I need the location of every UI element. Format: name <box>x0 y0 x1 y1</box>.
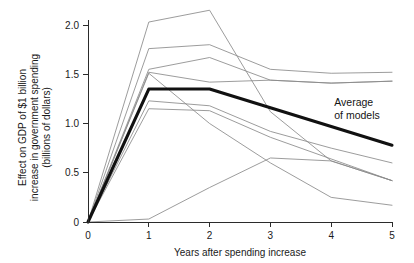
chart-canvas: 00.51.01.52.0 012345 Averageof models Ef… <box>0 0 414 263</box>
y-tick-label: 0 <box>73 217 79 228</box>
y-axis-title-line-1: Effect on GDP of $1 billion <box>17 69 28 186</box>
x-tick-label: 3 <box>268 230 274 241</box>
chart-figure: 00.51.01.52.0 012345 Averageof models Ef… <box>0 0 414 263</box>
series-line-model-3 <box>88 58 392 222</box>
y-axis-title-line-3: (billions of dollars) <box>41 87 52 168</box>
y-tick-label: 1.0 <box>65 118 79 129</box>
x-axis-ticks: 012345 <box>85 222 395 241</box>
y-axis-ticks: 00.51.01.52.0 <box>65 20 88 228</box>
annotation-average-of-models-line-2: of models <box>334 109 380 121</box>
chart-annotations: Averageof models <box>334 96 380 121</box>
x-tick-label: 5 <box>389 230 395 241</box>
x-axis-title: Years after spending increase <box>174 247 306 258</box>
y-tick-label: 0.5 <box>65 167 79 178</box>
y-axis-title: Effect on GDP of $1 billionincrease in g… <box>17 54 52 201</box>
x-tick-label: 4 <box>328 230 334 241</box>
x-tick-label: 2 <box>207 230 213 241</box>
series-line-model-8 <box>88 158 392 222</box>
y-axis-title-line-2: increase in government spending <box>29 54 40 201</box>
y-tick-label: 2.0 <box>65 20 79 31</box>
x-tick-label: 0 <box>85 230 91 241</box>
y-tick-label: 1.5 <box>65 69 79 80</box>
annotation-average-of-models-line-1: Average <box>334 96 373 108</box>
x-tick-label: 1 <box>146 230 152 241</box>
